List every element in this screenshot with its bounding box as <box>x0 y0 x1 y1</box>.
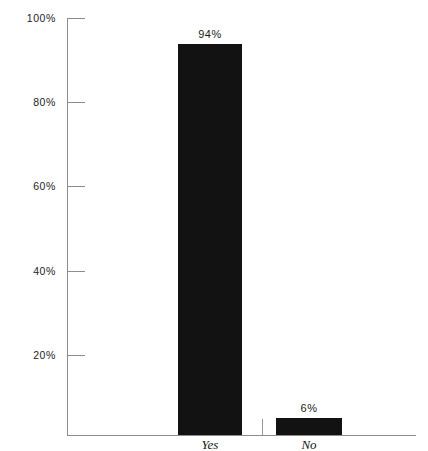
y-tick-label-100: 100% <box>0 12 56 24</box>
bar-value-label-yes: 94% <box>175 28 245 40</box>
y-tick-mark-20 <box>68 355 85 356</box>
bar-chart: 100% 80% 60% 40% 20% 94% Yes 6% No <box>0 0 428 451</box>
y-tick-mark-40 <box>68 271 85 272</box>
category-label-no: No <box>274 437 344 451</box>
y-tick-mark-100 <box>68 18 85 19</box>
x-tick-mark-divider <box>262 419 263 435</box>
bar-yes <box>178 44 242 435</box>
y-axis-line <box>67 18 68 436</box>
bar-no <box>276 418 342 435</box>
bar-value-label-no: 6% <box>274 402 344 414</box>
y-tick-mark-60 <box>68 186 85 187</box>
x-axis-line <box>67 435 416 436</box>
y-tick-label-80: 80% <box>0 96 56 108</box>
y-tick-label-60: 60% <box>0 180 56 192</box>
y-tick-label-40: 40% <box>0 265 56 277</box>
y-tick-label-20: 20% <box>0 349 56 361</box>
category-label-yes: Yes <box>175 437 245 451</box>
y-tick-mark-80 <box>68 102 85 103</box>
